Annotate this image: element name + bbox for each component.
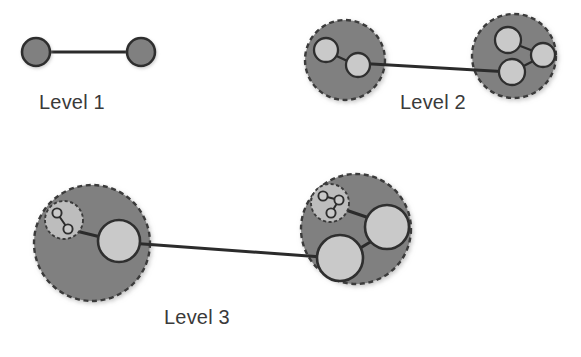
level-3-group (34, 174, 411, 301)
level-3-left-node-1[interactable] (98, 220, 140, 262)
level-2-right-node-2[interactable] (531, 43, 555, 67)
level-2-right-node-1[interactable] (495, 27, 521, 53)
graph-levels-diagram (0, 0, 581, 357)
level-3-right-node-1[interactable] (365, 205, 409, 249)
level-3-right-sub-node-3[interactable] (326, 208, 335, 217)
level-1-node-left[interactable] (22, 38, 50, 66)
level-2-left-node-1[interactable] (314, 38, 338, 62)
level-2-left-node-2[interactable] (346, 53, 370, 77)
level-3-right-sub-node-1[interactable] (318, 191, 327, 200)
level-3-right-sub-node-2[interactable] (334, 195, 343, 204)
level-3-left-subcluster[interactable] (45, 201, 83, 239)
level-1-node-right[interactable] (127, 38, 155, 66)
level-2-group (305, 14, 556, 100)
level-3-clusters (34, 174, 411, 301)
level-1-group (22, 38, 155, 66)
level-2-right-node-3[interactable] (499, 59, 525, 85)
level-3-left-sub-node-1[interactable] (52, 208, 61, 217)
level-2-clusters (305, 14, 556, 100)
level-3-right-node-2[interactable] (317, 235, 363, 281)
figure-root: Level 1 Level 2 Level 3 (0, 0, 581, 357)
level-3-left-subcluster-group (45, 201, 83, 239)
level-3-left-sub-node-2[interactable] (63, 224, 72, 233)
level-2-caption: Level 2 (400, 92, 466, 112)
level-3-right-subcluster-group (311, 184, 349, 222)
level-3-caption: Level 3 (164, 307, 230, 327)
level-1-caption: Level 1 (39, 92, 105, 112)
